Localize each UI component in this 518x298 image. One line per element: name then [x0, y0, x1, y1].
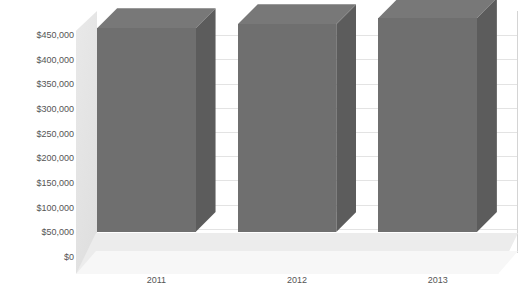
y-axis-tick-label: $250,000: [2, 129, 74, 139]
chart-left-wall: [76, 11, 97, 274]
x-axis-tick-label: 2011: [147, 275, 166, 285]
bar-front-face: [97, 28, 195, 232]
y-axis-tick-label: $300,000: [2, 104, 74, 114]
bar-side-face: [477, 0, 497, 232]
bar-side-face: [336, 4, 356, 232]
chart-floor-front-edge: [76, 251, 518, 274]
y-axis-tick-label: $50,000: [2, 227, 74, 237]
y-axis-tick-label: $350,000: [2, 79, 74, 89]
bar-top-face: [238, 4, 356, 24]
y-axis-tick-label: $150,000: [2, 178, 74, 188]
bar-side-face: [196, 8, 216, 232]
y-axis-tick-label: $450,000: [2, 30, 74, 40]
chart-bar-2012[interactable]: [238, 24, 336, 232]
bar-top-face: [97, 8, 215, 28]
x-axis-tick-label: 2013: [428, 275, 448, 285]
bar-front-face: [238, 24, 336, 232]
y-axis-tick-label: $200,000: [2, 153, 74, 163]
y-axis-tick-label: $100,000: [2, 203, 74, 213]
y-axis: $0$50,000$100,000$150,000$200,000$250,00…: [0, 0, 74, 298]
bar-front-face: [378, 18, 476, 232]
chart-bar-2011[interactable]: [97, 28, 195, 232]
chart-plot-area: [76, 11, 518, 273]
y-axis-tick-label: $0: [2, 252, 74, 262]
y-axis-tick-label: $400,000: [2, 55, 74, 65]
x-axis-tick-label: 2012: [287, 275, 307, 285]
chart-container: $0$50,000$100,000$150,000$200,000$250,00…: [0, 0, 518, 298]
chart-bar-2013[interactable]: [378, 18, 476, 232]
bar-top-face: [378, 0, 496, 18]
